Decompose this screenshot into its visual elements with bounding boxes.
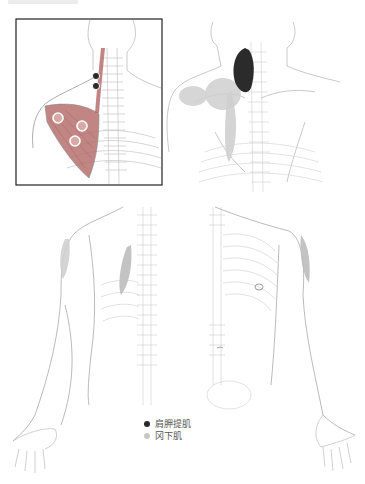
legend-item-infraspinatus: 冈下肌 — [144, 430, 191, 442]
legend: 肩胛提肌 冈下肌 — [144, 418, 191, 442]
faded-caption — [8, 0, 78, 4]
anterior-arm-panel — [205, 205, 365, 475]
light-dot-icon — [144, 433, 150, 439]
legend-label: 冈下肌 — [155, 430, 182, 442]
legend-item-levator-scapulae: 肩胛提肌 — [144, 418, 191, 430]
inset-trigger-points-panel — [15, 18, 163, 186]
legend-label: 肩胛提肌 — [155, 418, 191, 430]
posterior-arm-panel — [5, 205, 165, 475]
dark-dot-icon — [144, 421, 150, 427]
back-referred-pain-panel — [165, 12, 365, 197]
